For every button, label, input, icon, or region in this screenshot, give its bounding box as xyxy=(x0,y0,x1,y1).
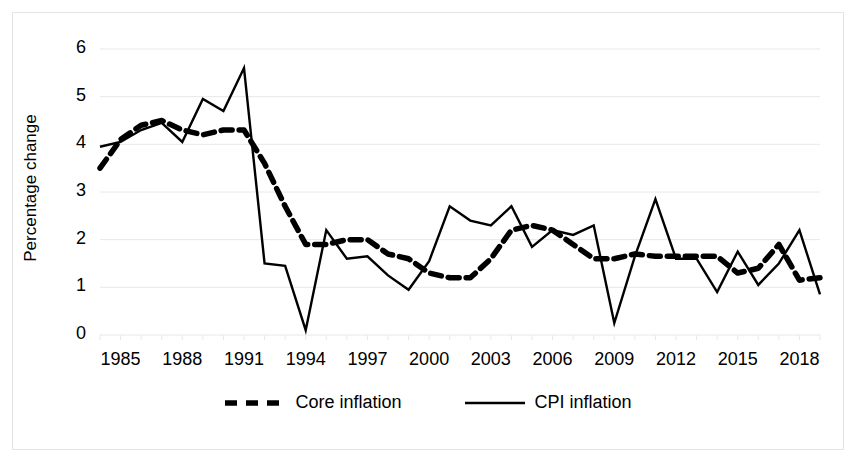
legend-entry-cpi-inflation: CPI inflation xyxy=(464,392,632,413)
y-tick-label: 4 xyxy=(56,132,86,153)
legend-swatch-dashed xyxy=(224,397,286,409)
x-tick-label: 1988 xyxy=(152,349,212,370)
chart-legend: Core inflation CPI inflation xyxy=(0,392,856,413)
x-axis-tickmarks xyxy=(100,335,820,340)
x-tick-label: 2003 xyxy=(461,349,521,370)
y-tick-label: 1 xyxy=(56,275,86,296)
x-tick-label: 2006 xyxy=(523,349,583,370)
legend-entry-core-inflation: Core inflation xyxy=(224,392,401,413)
legend-label-cpi-inflation: CPI inflation xyxy=(535,392,632,413)
x-tick-label: 1997 xyxy=(337,349,397,370)
x-tick-label: 2000 xyxy=(399,349,459,370)
x-tick-label: 2009 xyxy=(584,349,644,370)
y-axis-title: Percentage change xyxy=(21,78,41,298)
y-tick-label: 6 xyxy=(56,37,86,58)
y-tick-label: 3 xyxy=(56,180,86,201)
y-tick-label: 2 xyxy=(56,228,86,249)
gridlines xyxy=(100,49,820,335)
x-tick-label: 1991 xyxy=(214,349,274,370)
x-tick-label: 1994 xyxy=(276,349,336,370)
y-tick-label: 5 xyxy=(56,85,86,106)
chart-screenshot: Percentage change 6543210 19851988199119… xyxy=(0,0,856,462)
x-tick-label: 2015 xyxy=(708,349,768,370)
y-tick-label: 0 xyxy=(56,323,86,344)
series-lines xyxy=(100,68,820,330)
legend-label-core-inflation: Core inflation xyxy=(295,392,401,413)
x-tick-label: 2018 xyxy=(769,349,829,370)
legend-swatch-solid xyxy=(464,397,526,409)
x-tick-label: 2012 xyxy=(646,349,706,370)
x-tick-label: 1985 xyxy=(91,349,151,370)
